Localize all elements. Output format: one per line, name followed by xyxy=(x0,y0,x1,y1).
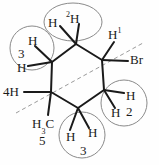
label-h-right-upper: H xyxy=(126,89,135,102)
dashed-plane-line xyxy=(16,43,143,113)
label-h-left-lower: H xyxy=(17,61,26,74)
methyl-c: C xyxy=(45,116,54,131)
h1-h: H xyxy=(108,27,117,42)
label-number-3-left: 3 xyxy=(18,47,25,60)
label-bromine: Br xyxy=(130,53,143,66)
label-4h: 4H xyxy=(3,85,19,98)
label-h-bottom-left: H xyxy=(66,130,75,143)
superscript-2: 2 xyxy=(66,10,70,19)
label-h-top-left: H xyxy=(48,16,57,29)
label-h-right-lower: H xyxy=(111,106,120,119)
label-h1: H1 xyxy=(108,28,121,41)
chemical-structure-diagram: H 2H H 3 H H1 Br H H 2 4H H3C 5 H H 3 xyxy=(0,0,159,165)
circle-h2-right xyxy=(101,80,147,126)
superscript-1: 1 xyxy=(117,26,121,35)
methyl-h: H xyxy=(32,116,41,131)
label-h-bottom-right: H xyxy=(88,126,97,139)
label-methyl-group: H3C xyxy=(32,117,54,134)
label-number-3-bottom: 3 xyxy=(80,144,87,157)
label-h-deuterium: 2H xyxy=(66,12,79,25)
structure-drawing xyxy=(0,0,159,165)
cyclohexane-ring xyxy=(51,44,104,108)
label-number-2-right: 2 xyxy=(126,105,133,118)
label-h-left-upper: H xyxy=(28,34,37,47)
label-number-5: 5 xyxy=(39,134,46,147)
deuterium-h: H xyxy=(70,11,79,26)
